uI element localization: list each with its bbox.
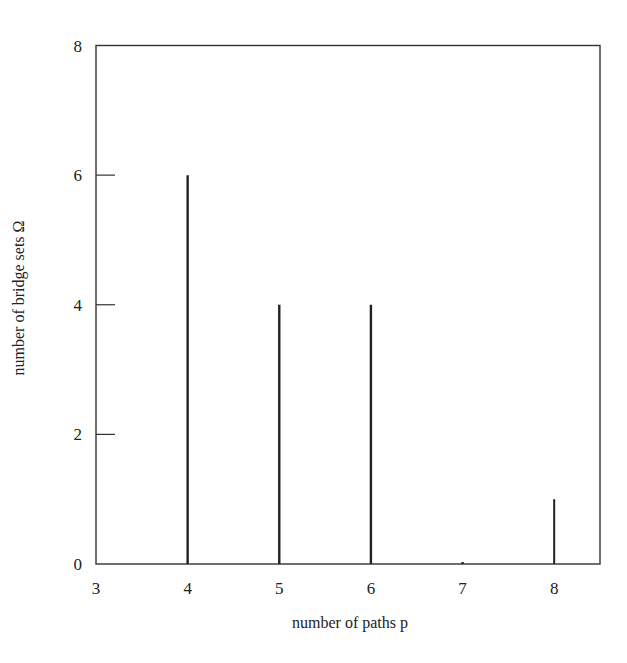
x-axis-label: number of paths p [292, 614, 408, 632]
chart: 02468 345678 number of paths p number of… [0, 0, 627, 663]
x-tick-label: 7 [458, 579, 467, 598]
y-tick-label: 8 [74, 37, 83, 56]
x-tick-label: 3 [92, 579, 101, 598]
y-axis-ticks: 02468 [74, 37, 116, 575]
y-tick-label: 2 [74, 425, 83, 444]
y-axis-label: number of bridge sets Ω [10, 220, 28, 375]
y-tick-label: 6 [74, 166, 83, 185]
y-tick-label: 4 [74, 296, 83, 315]
plot-frame [96, 46, 600, 565]
y-tick-label: 0 [74, 555, 83, 574]
x-tick-label: 6 [367, 579, 376, 598]
x-tick-label: 8 [550, 579, 559, 598]
x-axis-ticks: 345678 [92, 579, 559, 598]
x-tick-label: 5 [275, 579, 284, 598]
stem-bars [188, 175, 555, 564]
x-tick-label: 4 [183, 579, 192, 598]
